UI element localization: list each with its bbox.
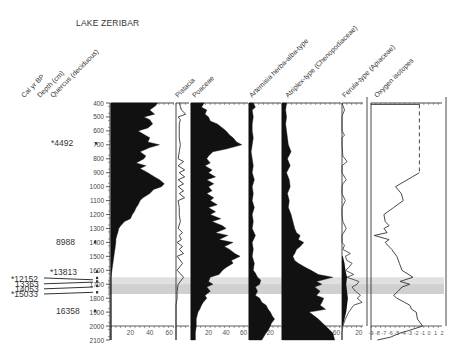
x-tick-label: -7: [381, 330, 386, 336]
x-tick-label: 60: [240, 329, 248, 336]
depth-tick-label: 2100: [90, 337, 105, 344]
series-oxygen-isotopes: -9-8-7-6-5-4-3-2-1012: [369, 103, 444, 340]
x-tick-label: -6: [388, 330, 393, 336]
age-date-label: 16358: [56, 306, 80, 316]
x-tick-label: 60: [333, 329, 341, 336]
depth-tick-label: 1000: [90, 183, 105, 190]
series-atriplex-type-chenopodiaceae: 204060: [282, 103, 341, 340]
depth-tick-label: 600: [93, 127, 104, 134]
depth-tick-label: 400: [93, 100, 104, 107]
x-tick-label: 40: [222, 329, 230, 336]
series-quercus-deciduous: 204060: [111, 103, 174, 340]
column-headers: Cal yr BPDepth (cm)Quercus (deciduous)Pi…: [20, 24, 416, 99]
series-ferula-type-apiaceae: 20: [342, 103, 363, 340]
depth-tick-label: 1800: [90, 295, 105, 302]
depth-tick-label: 1300: [90, 225, 105, 232]
depth-tick-label: 700: [93, 141, 104, 148]
x-tick-label: 1: [434, 330, 437, 336]
column-header: Poaceae: [191, 74, 216, 99]
x-tick-label: 20: [127, 329, 135, 336]
age-marker: [95, 142, 97, 144]
highlight-band-inner: [108, 284, 444, 294]
depth-tick-label: 1900: [90, 309, 105, 316]
depth-tick-label: 1400: [90, 239, 105, 246]
column-header: Ferula-type (Apiaceae): [341, 43, 397, 99]
depth-axis: 4005006007008009001000110012001300140015…: [90, 100, 110, 344]
x-tick-label: 2: [440, 330, 443, 336]
depth-tick-label: 1500: [90, 253, 105, 260]
series-pistacia: [176, 103, 189, 340]
age-date-label: *15033: [11, 289, 38, 299]
x-tick-label: 20: [205, 329, 213, 336]
x-tick-label: -1: [420, 330, 425, 336]
x-tick-label: 60: [166, 329, 174, 336]
age-date-label: *13813: [50, 267, 77, 277]
depth-tick-label: 1200: [90, 211, 105, 218]
age-date-label: *4492: [51, 138, 73, 148]
x-tick-label: 0: [428, 330, 431, 336]
depth-tick-label: 500: [93, 113, 104, 120]
age-date-label: 8988: [56, 237, 75, 247]
x-tick-label: -8: [375, 330, 380, 336]
age-marker: [96, 277, 98, 279]
x-tick-label: -9: [369, 330, 374, 336]
depth-tick-label: 2000: [90, 323, 105, 330]
age-labels: *44928988*13813*121521336314053*15033163…: [11, 138, 98, 315]
column-header: Artemisia herba-alba-type: [248, 37, 310, 99]
age-marker: [94, 241, 96, 243]
series-poaceae: 204060: [191, 103, 248, 340]
age-marker: [96, 270, 98, 272]
age-marker: [94, 310, 96, 312]
x-tick-label: -2: [414, 330, 419, 336]
depth-tick-label: 1100: [90, 197, 104, 204]
depth-tick-label: 900: [93, 169, 104, 176]
age-marker: [96, 280, 98, 282]
pollen-diagram: 4005006007008009001000110012001300140015…: [0, 0, 454, 352]
age-marker: [96, 285, 98, 287]
series-artemisia-herba-alba-type: 20: [249, 103, 281, 340]
x-tick-label: 20: [355, 329, 363, 336]
x-tick-label: 40: [146, 329, 154, 336]
depth-tick-label: 800: [93, 155, 104, 162]
age-marker: [96, 291, 98, 293]
